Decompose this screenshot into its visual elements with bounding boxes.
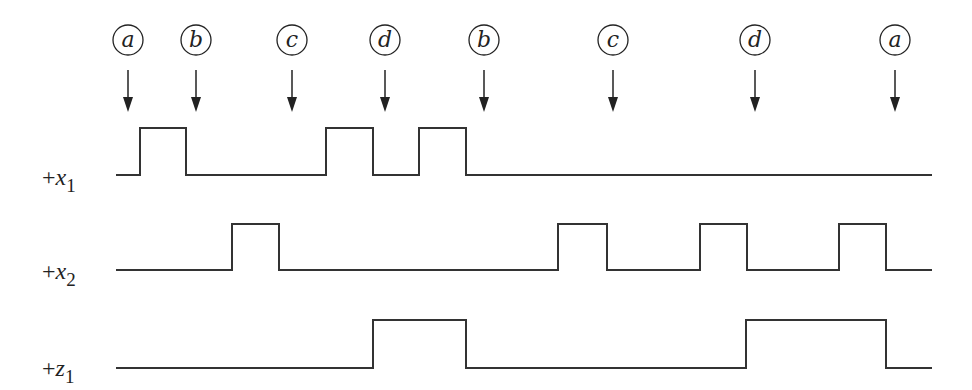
signal-prefix: +: [42, 164, 56, 190]
event-label: c: [607, 27, 619, 52]
signal-subscript: 1: [65, 366, 75, 387]
event-label: d: [378, 27, 392, 52]
event-marker-c: c: [598, 25, 628, 112]
event-label: a: [121, 27, 134, 52]
event-label: b: [189, 27, 203, 52]
signal-label-z1: +z1: [42, 355, 74, 388]
event-marker-b: b: [181, 25, 211, 112]
signal-prefix: +: [42, 258, 56, 284]
event-label: a: [888, 27, 901, 52]
signal-subscript: 2: [66, 269, 76, 290]
event-marker-c: c: [277, 25, 307, 112]
event-label: c: [286, 27, 298, 52]
event-marker-a: a: [113, 25, 143, 112]
signal-prefix: +: [42, 355, 56, 381]
waveform-x2: [116, 224, 932, 270]
waveform-z1: [116, 320, 932, 368]
arrow-down-icon: [608, 97, 618, 112]
event-marker-b: b: [469, 25, 499, 112]
arrow-down-icon: [750, 97, 760, 112]
signal-variable: x: [56, 258, 67, 284]
event-markers: abcdbcda: [113, 25, 910, 112]
arrow-down-icon: [287, 97, 297, 112]
arrow-down-icon: [890, 97, 900, 112]
event-marker-d: d: [740, 25, 770, 112]
event-label: d: [748, 27, 762, 52]
event-marker-d: d: [370, 25, 400, 112]
event-label: b: [477, 27, 491, 52]
waveforms: [116, 128, 932, 368]
arrow-down-icon: [380, 97, 390, 112]
signal-label-x2: +x2: [42, 258, 76, 291]
arrow-down-icon: [479, 97, 489, 112]
arrow-down-icon: [123, 97, 133, 112]
timing-diagram: abcdbcda: [0, 0, 972, 390]
signal-variable: z: [56, 355, 65, 381]
waveform-x1: [116, 128, 932, 175]
signal-subscript: 1: [66, 175, 76, 196]
signal-label-x1: +x1: [42, 164, 76, 197]
arrow-down-icon: [191, 97, 201, 112]
event-marker-a: a: [880, 25, 910, 112]
signal-variable: x: [56, 164, 67, 190]
